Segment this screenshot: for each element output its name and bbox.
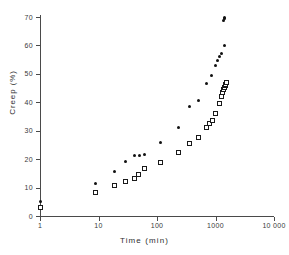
data-point-filled-circles [216,59,219,62]
y-tick-label: 40 [0,99,33,106]
x-tick [40,217,41,221]
data-point-filled-circles [188,105,191,108]
y-tick-label: 20 [0,156,33,163]
x-tick-label: 100 [151,222,164,229]
data-point-filled-circles [197,99,200,102]
y-tick-label-text: 70 [0,14,33,21]
data-point-filled-circles [133,154,136,157]
data-point-open-squares [217,101,222,106]
y-tick-label-text: 30 [0,127,33,134]
y-axis-line [40,15,41,217]
y-tick-label: 60 [0,42,33,49]
data-point-filled-circles [218,55,221,58]
x-tick [216,217,217,221]
x-axis-title: Time (min) [0,236,289,245]
x-tick-label: 10 000 [262,222,285,229]
data-point-filled-circles [113,170,116,173]
y-tick-label-text: 0 [0,213,33,220]
y-tick [36,188,40,189]
y-tick-label: 70 [0,14,33,21]
data-point-open-squares [136,172,141,177]
y-tick [36,102,40,103]
y-tick [36,74,40,75]
data-point-filled-circles [143,153,146,156]
data-point-filled-circles [39,200,42,203]
data-point-filled-circles [94,182,97,185]
y-tick-label-text: 10 [0,184,33,191]
data-point-filled-circles [159,141,162,144]
data-point-filled-circles [223,16,226,19]
y-tick [36,131,40,132]
y-tick [36,17,40,18]
data-point-filled-circles [124,160,127,163]
y-tick [36,159,40,160]
y-tick-label: 0 [0,213,33,220]
data-point-filled-circles [220,52,223,55]
y-tick-label: 50 [0,70,33,77]
data-point-open-squares [210,118,215,123]
data-point-open-squares [176,150,181,155]
data-point-open-squares [158,160,163,165]
data-point-open-squares [93,190,98,195]
x-tick-label: 10 [94,222,102,229]
y-tick-label: 10 [0,184,33,191]
y-tick [36,45,40,46]
data-point-filled-circles [214,64,217,67]
data-point-filled-circles [210,74,213,77]
y-tick-label: 30 [0,127,33,134]
y-tick-label-text: 60 [0,42,33,49]
data-point-open-squares [219,94,224,99]
y-axis-title: Creep (%) [8,53,17,133]
y-tick-label-text: 40 [0,99,33,106]
data-point-filled-circles [223,44,226,47]
data-point-open-squares [38,205,43,210]
data-point-open-squares [112,183,117,188]
data-point-open-squares [224,80,229,85]
data-point-open-squares [213,111,218,116]
data-point-open-squares [142,166,147,171]
y-tick-label-text: 50 [0,70,33,77]
data-point-filled-circles [177,126,180,129]
x-tick [99,217,100,221]
data-point-filled-circles [138,154,141,157]
x-tick [157,217,158,221]
x-tick-label: 1000 [207,222,224,229]
data-point-open-squares [196,135,201,140]
creep-vs-time-chart: 010203040506070 110100100010 000 Time (m… [0,0,289,255]
y-tick-label-text: 20 [0,156,33,163]
data-point-filled-circles [205,82,208,85]
x-tick-label: 1 [38,222,42,229]
x-tick [274,217,275,221]
data-point-open-squares [123,179,128,184]
data-point-open-squares [187,141,192,146]
